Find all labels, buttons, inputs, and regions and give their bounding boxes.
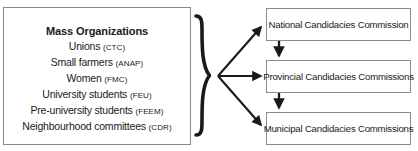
organization-abbreviation: (ANAP) xyxy=(116,59,144,68)
curly-brace-right-icon xyxy=(196,16,210,135)
organization-name: Women xyxy=(67,72,102,84)
fan-arrow-to-municipal xyxy=(218,76,261,125)
organization-flow-diagram: Mass Organizations Unions (CTC) Small fa… xyxy=(0,0,418,151)
organization-abbreviation: (CDR) xyxy=(149,123,172,132)
list-item: Small farmers (ANAP) xyxy=(4,55,190,71)
list-item: Pre-university students (FEEM) xyxy=(4,103,190,119)
commission-label: National Candidacies Commission xyxy=(269,19,409,30)
organization-abbreviation: (FMC) xyxy=(104,75,127,84)
organization-name: Unions xyxy=(69,40,100,52)
organization-abbreviation: (CTC) xyxy=(103,43,125,52)
list-item: Women (FMC) xyxy=(4,71,190,87)
commission-box-national: National Candidacies Commission xyxy=(266,8,411,41)
mass-organizations-list: Mass Organizations Unions (CTC) Small fa… xyxy=(4,24,190,135)
commission-box-municipal: Municipal Candidacies Commissions xyxy=(266,112,411,145)
mass-organizations-panel: Mass Organizations Unions (CTC) Small fa… xyxy=(3,7,191,145)
list-item: University students (FEU) xyxy=(4,87,190,103)
list-item: Unions (CTC) xyxy=(4,39,190,55)
organization-name: University students xyxy=(42,88,127,100)
list-item: Neighbourhood committees (CDR) xyxy=(4,119,190,135)
mass-organizations-heading: Mass Organizations xyxy=(4,24,190,38)
organization-name: Small farmers xyxy=(51,56,113,68)
organization-name: Neighbourhood committees xyxy=(22,120,146,132)
commission-box-provincial: Provincial Candidacies Commissions xyxy=(266,60,411,93)
organization-abbreviation: (FEU) xyxy=(130,91,152,100)
organization-name: Pre-university students xyxy=(30,104,132,116)
fan-arrow-to-national xyxy=(218,27,261,76)
commission-label: Municipal Candidacies Commissions xyxy=(264,123,414,134)
commission-label: Provincial Candidacies Commissions xyxy=(263,71,414,82)
organization-abbreviation: (FEEM) xyxy=(135,107,163,116)
